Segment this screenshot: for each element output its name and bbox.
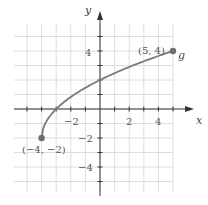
annotation-neg4-neg2: (−4, −2): [22, 144, 66, 155]
x-tick-label-4: 4: [155, 116, 161, 127]
y-tick-label-neg2: −2: [78, 133, 93, 144]
x-tick-label-neg2: −2: [64, 116, 79, 127]
function-label-g: g: [178, 49, 185, 62]
chart-svg: y x 4 −2 −4 −2 2 4 (5, 4) (−4, −2) g: [0, 0, 208, 205]
annotation-5-4: (5, 4): [138, 45, 165, 56]
y-axis-label: y: [84, 4, 92, 17]
y-tick-label-neg4: −4: [78, 162, 93, 173]
axes: [14, 11, 194, 196]
y-axis-arrow-icon: [97, 11, 103, 20]
endpoint-5-4: [170, 48, 176, 54]
y-tick-label-4: 4: [85, 47, 91, 58]
x-tick-label-2: 2: [126, 116, 132, 127]
endpoint-neg4-neg2: [38, 135, 44, 141]
x-axis-label: x: [196, 114, 203, 127]
x-axis-arrow-icon: [185, 106, 194, 112]
